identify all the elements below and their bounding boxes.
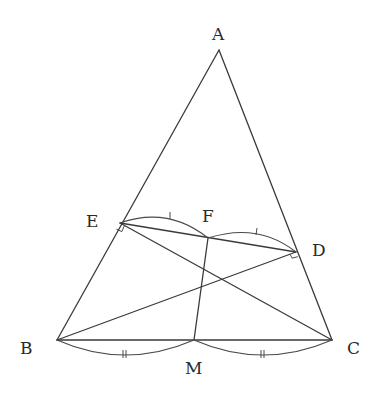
geometry-diagram: A B C D E F M <box>0 0 384 401</box>
equal-arc-mc <box>194 340 332 355</box>
segment-ac <box>219 50 332 340</box>
label-c: C <box>347 338 360 358</box>
triangle-figure: A B C D E F M <box>0 0 384 401</box>
label-b: B <box>20 338 33 358</box>
label-m: M <box>185 358 202 378</box>
segment-bd <box>57 252 296 340</box>
equal-arc-fd <box>208 232 296 252</box>
label-a: A <box>211 24 225 44</box>
segment-ab <box>57 50 219 340</box>
label-f: F <box>202 206 214 226</box>
label-e: E <box>86 211 98 231</box>
label-d: D <box>312 240 326 260</box>
right-angle-mark-d <box>290 254 298 258</box>
